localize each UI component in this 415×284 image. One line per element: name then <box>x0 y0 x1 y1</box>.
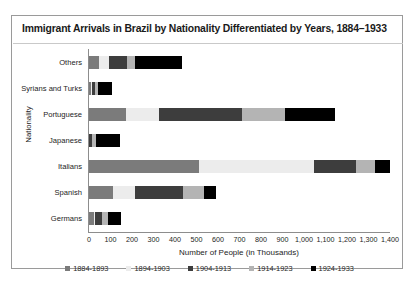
bar-segment[interactable] <box>159 108 242 121</box>
bar-segment[interactable] <box>89 186 113 199</box>
x-axis-tick: 1,300 <box>360 235 378 244</box>
y-axis-label: Spanish <box>12 180 86 206</box>
chart-figure: Immigrant Arrivals in Brazil by National… <box>11 15 403 269</box>
y-axis-labels: OthersSyrians and TurksPortugueseJapanes… <box>12 49 86 232</box>
bar-segment[interactable] <box>126 108 159 121</box>
x-axis-tick: 1,000 <box>295 235 313 244</box>
bar-segment[interactable] <box>109 56 127 69</box>
x-axis-tick: 300 <box>148 235 160 244</box>
bar-row <box>89 101 390 127</box>
x-axis-tick: 800 <box>255 235 267 244</box>
stacked-bar[interactable] <box>89 212 121 225</box>
y-axis-label: Germans <box>12 206 86 232</box>
bar-row <box>89 75 390 101</box>
y-axis-label: Italians <box>12 154 86 180</box>
y-axis-label: Portuguese <box>12 101 86 127</box>
bar-segment[interactable] <box>285 108 335 121</box>
legend-swatch-icon <box>65 266 70 271</box>
bar-segment[interactable] <box>96 134 120 147</box>
bar-segment[interactable] <box>89 56 99 69</box>
bar-row <box>89 180 390 206</box>
chart-title: Immigrant Arrivals in Brazil by National… <box>22 23 397 34</box>
legend-swatch-icon <box>188 266 193 271</box>
legend-label: 1924-1933 <box>319 264 354 273</box>
bar-segment[interactable] <box>113 186 135 199</box>
x-axis-tick: 600 <box>212 235 224 244</box>
bar-segment[interactable] <box>204 186 217 199</box>
x-axis-line <box>88 232 390 233</box>
legend-label: 1894-1903 <box>134 264 169 273</box>
bar-segment[interactable] <box>183 186 203 199</box>
y-axis-label: Others <box>12 49 86 75</box>
x-axis-tick: 1,400 <box>381 235 399 244</box>
legend-swatch-icon <box>311 266 316 271</box>
stacked-bar[interactable] <box>89 134 120 147</box>
legend-item[interactable]: 1884-1893 <box>65 264 108 273</box>
chart-page: Immigrant Arrivals in Brazil by National… <box>0 0 415 284</box>
bar-segment[interactable] <box>108 212 121 225</box>
x-axis-tick: 100 <box>105 235 117 244</box>
x-axis-tick: 900 <box>277 235 289 244</box>
bar-segment[interactable] <box>99 56 109 69</box>
x-axis-title: Number of People (in Thousands) <box>88 248 390 257</box>
stacked-bar[interactable] <box>89 160 390 173</box>
x-axis-ticks: 01002003004005006007008009001,0001,1001,… <box>89 235 390 247</box>
x-axis-tick: 500 <box>191 235 203 244</box>
legend-swatch-icon <box>249 266 254 271</box>
bar-segment[interactable] <box>89 160 199 173</box>
title-divider <box>13 43 403 44</box>
x-axis-tick: 1,100 <box>317 235 335 244</box>
bar-row <box>89 49 390 75</box>
bar-segment[interactable] <box>199 160 314 173</box>
legend-label: 1904-1913 <box>196 264 231 273</box>
legend-item[interactable]: 1894-1903 <box>126 264 169 273</box>
y-axis-label: Japanese <box>12 127 86 153</box>
bar-segment[interactable] <box>127 56 135 69</box>
stacked-bar[interactable] <box>89 82 112 95</box>
bar-segment[interactable] <box>135 186 183 199</box>
legend-item[interactable]: 1924-1933 <box>311 264 354 273</box>
stacked-bar[interactable] <box>89 186 216 199</box>
stacked-bar[interactable] <box>89 108 335 121</box>
x-axis-tick: 1,200 <box>338 235 356 244</box>
bar-segment[interactable] <box>98 82 112 95</box>
legend-label: 1884-1893 <box>73 264 108 273</box>
x-axis-tick: 700 <box>234 235 246 244</box>
y-axis-label: Syrians and Turks <box>12 75 86 101</box>
chart-legend: 1884-18931894-19031904-19131914-19231924… <box>32 264 387 273</box>
bar-segment[interactable] <box>135 56 182 69</box>
legend-item[interactable]: 1914-1923 <box>249 264 292 273</box>
stacked-bar[interactable] <box>89 56 182 69</box>
x-axis-tick: 200 <box>126 235 138 244</box>
legend-label: 1914-1923 <box>257 264 292 273</box>
bar-row <box>89 127 390 153</box>
bar-segment[interactable] <box>95 212 102 225</box>
legend-item[interactable]: 1904-1913 <box>188 264 231 273</box>
plot-area <box>88 49 390 233</box>
x-axis-tick: 0 <box>87 235 91 244</box>
bar-segment[interactable] <box>356 160 374 173</box>
bar-rows <box>89 49 390 232</box>
x-axis-tick: 400 <box>169 235 181 244</box>
bar-row <box>89 206 390 232</box>
bar-segment[interactable] <box>314 160 356 173</box>
bar-segment[interactable] <box>375 160 390 173</box>
bar-row <box>89 154 390 180</box>
bar-segment[interactable] <box>89 108 126 121</box>
bar-segment[interactable] <box>242 108 285 121</box>
legend-swatch-icon <box>126 266 131 271</box>
